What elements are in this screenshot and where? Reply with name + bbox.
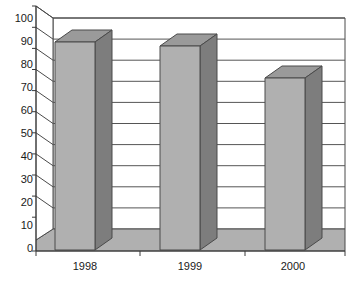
top-depth-edge [36,6,345,18]
left-wall [36,6,53,240]
x-axis-tick-label: 1999 [160,261,220,272]
bar-side-face [305,66,322,250]
bar-chart: 100 90 80 70 60 50 40 30 20 10 0 [0,0,357,282]
bar-side-face [95,30,112,250]
y-axis-line [32,6,36,251]
bar-front-face [265,78,305,250]
bar-1998[interactable] [55,30,112,250]
bar-2000[interactable] [265,66,322,250]
bar-side-face [200,34,217,250]
bar-front-face [55,42,95,250]
chart-plot-area [0,0,357,282]
x-axis-tick-label: 1998 [55,261,115,272]
bar-front-face [160,46,200,250]
bar-1999[interactable] [160,34,217,250]
x-axis-tick-label: 2000 [263,261,323,272]
x-axis-line [36,251,345,256]
